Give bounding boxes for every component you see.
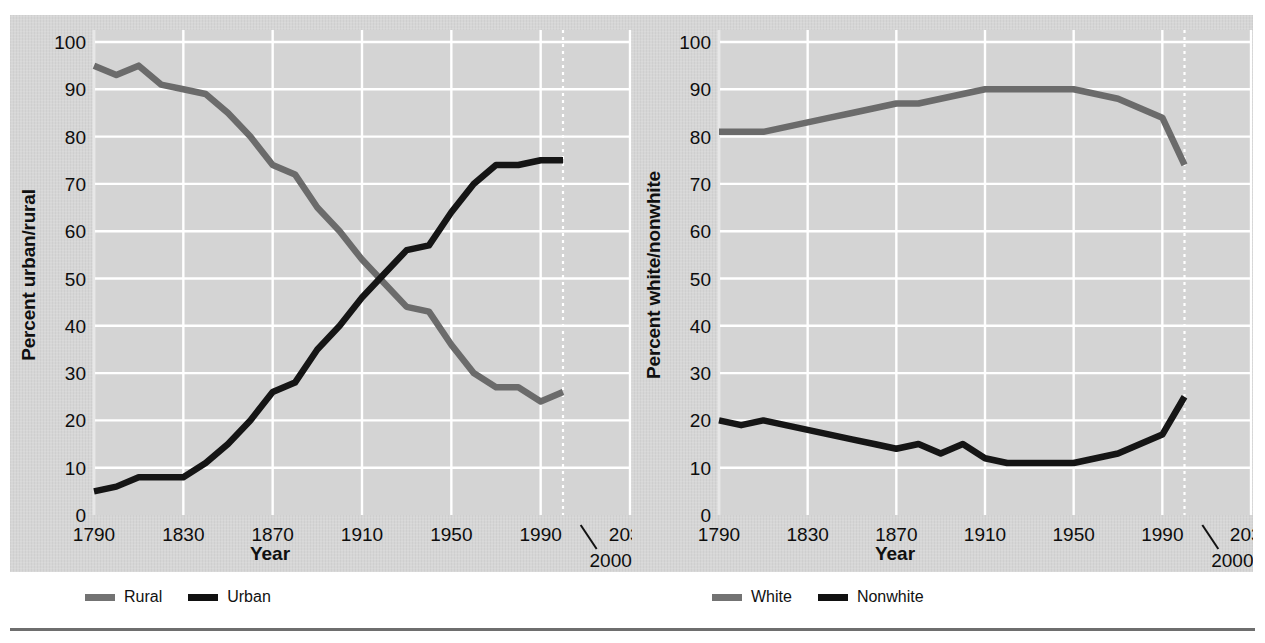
legend-swatch-white-icon bbox=[712, 594, 742, 601]
svg-text:1790: 1790 bbox=[698, 524, 740, 545]
svg-text:30: 30 bbox=[690, 363, 711, 384]
chart-urban-rural: Percent urban/rural 01020304050607080901… bbox=[10, 15, 635, 572]
svg-text:2030: 2030 bbox=[609, 524, 632, 545]
svg-text:1790: 1790 bbox=[73, 524, 115, 545]
svg-text:40: 40 bbox=[690, 316, 711, 337]
svg-text:1990: 1990 bbox=[1141, 524, 1183, 545]
x-axis-label-left: Year bbox=[150, 543, 390, 565]
svg-text:80: 80 bbox=[65, 127, 86, 148]
legend-swatch-rural-icon bbox=[85, 594, 115, 601]
legend-white-nonwhite: White Nonwhite bbox=[712, 588, 924, 606]
svg-text:30: 30 bbox=[65, 363, 86, 384]
plot-area-left: 0102030405060708090100179018301870191019… bbox=[42, 15, 632, 575]
svg-text:60: 60 bbox=[690, 221, 711, 242]
svg-text:0: 0 bbox=[700, 505, 711, 526]
figure-root: Percent urban/rural 01020304050607080901… bbox=[0, 0, 1265, 643]
svg-text:90: 90 bbox=[65, 79, 86, 100]
svg-text:1990: 1990 bbox=[520, 524, 562, 545]
svg-text:2000: 2000 bbox=[590, 550, 632, 571]
legend-item-nonwhite: Nonwhite bbox=[818, 588, 924, 606]
svg-text:80: 80 bbox=[690, 127, 711, 148]
y-axis-label-right: Percent white/nonwhite bbox=[641, 15, 667, 535]
svg-text:10: 10 bbox=[690, 458, 711, 479]
plot-area-right: 0102030405060708090100179018301870191019… bbox=[667, 15, 1253, 575]
legend-item-urban: Urban bbox=[188, 588, 271, 606]
svg-text:2000: 2000 bbox=[1211, 550, 1253, 571]
svg-text:100: 100 bbox=[679, 32, 711, 53]
svg-text:60: 60 bbox=[65, 221, 86, 242]
svg-text:100: 100 bbox=[54, 32, 86, 53]
svg-text:1870: 1870 bbox=[875, 524, 917, 545]
svg-text:1950: 1950 bbox=[1053, 524, 1095, 545]
chart-white-nonwhite: Percent white/nonwhite 01020304050607080… bbox=[635, 15, 1253, 572]
legend-label-rural: Rural bbox=[124, 588, 162, 606]
legend-item-white: White bbox=[712, 588, 792, 606]
y-axis-label-left-text: Percent urban/rural bbox=[18, 189, 40, 360]
legend-label-nonwhite: Nonwhite bbox=[857, 588, 924, 606]
svg-text:1950: 1950 bbox=[430, 524, 472, 545]
plot-svg-left: 0102030405060708090100179018301870191019… bbox=[42, 15, 632, 575]
x-axis-label-right: Year bbox=[775, 543, 1015, 565]
svg-text:50: 50 bbox=[690, 269, 711, 290]
svg-text:70: 70 bbox=[690, 174, 711, 195]
svg-text:2030: 2030 bbox=[1230, 524, 1253, 545]
svg-text:70: 70 bbox=[65, 174, 86, 195]
svg-text:50: 50 bbox=[65, 269, 86, 290]
legend-item-rural: Rural bbox=[85, 588, 162, 606]
bottom-divider bbox=[10, 628, 1255, 631]
svg-text:1910: 1910 bbox=[964, 524, 1006, 545]
svg-text:1830: 1830 bbox=[162, 524, 204, 545]
svg-text:1870: 1870 bbox=[252, 524, 294, 545]
legend-urban-rural: Rural Urban bbox=[85, 588, 271, 606]
legend-swatch-urban-icon bbox=[188, 594, 218, 601]
legend-swatch-nonwhite-icon bbox=[818, 594, 848, 601]
y-axis-label-left: Percent urban/rural bbox=[16, 15, 42, 535]
svg-text:0: 0 bbox=[75, 505, 86, 526]
svg-text:1830: 1830 bbox=[787, 524, 829, 545]
svg-text:20: 20 bbox=[690, 410, 711, 431]
svg-text:90: 90 bbox=[690, 79, 711, 100]
svg-text:10: 10 bbox=[65, 458, 86, 479]
svg-text:1910: 1910 bbox=[341, 524, 383, 545]
svg-text:40: 40 bbox=[65, 316, 86, 337]
svg-text:20: 20 bbox=[65, 410, 86, 431]
legend-label-white: White bbox=[751, 588, 792, 606]
legend-label-urban: Urban bbox=[227, 588, 271, 606]
plot-svg-right: 0102030405060708090100179018301870191019… bbox=[667, 15, 1253, 575]
y-axis-label-right-text: Percent white/nonwhite bbox=[643, 171, 665, 379]
